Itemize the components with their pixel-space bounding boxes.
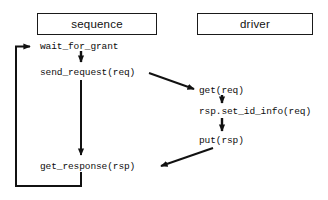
step-send-request: send_request(req) xyxy=(40,67,135,78)
diagram-canvas: sequence driver wait_for_grant send_requ xyxy=(0,0,328,200)
lane-header-sequence: sequence xyxy=(37,13,157,35)
step-rsp-set-id-info: rsp.set_id_info(req) xyxy=(199,106,311,117)
step-wait-for-grant: wait_for_grant xyxy=(40,41,118,52)
step-get-response: get_response(rsp) xyxy=(40,161,135,172)
edge-put-to-get-response xyxy=(161,148,213,166)
lane-header-sequence-label: sequence xyxy=(71,18,122,30)
edge-send-to-get-req xyxy=(149,73,194,89)
lane-header-driver-label: driver xyxy=(240,18,270,30)
step-put-rsp: put(rsp) xyxy=(199,135,244,146)
step-get-req: get(req) xyxy=(199,85,244,96)
lane-header-driver: driver xyxy=(197,13,313,35)
